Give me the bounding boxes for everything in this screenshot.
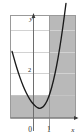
x-tick-label-0: 0 [28, 125, 32, 134]
y-tick-label-2: 2 [28, 66, 31, 73]
parabola-chart: y x 0 1 2 [0, 0, 79, 139]
figure-container: y x 0 1 2 [0, 0, 79, 139]
x-axis-arrow-icon [74, 116, 79, 120]
x-axis-label: x [70, 126, 75, 134]
x-tick-label-1: 1 [47, 125, 51, 134]
